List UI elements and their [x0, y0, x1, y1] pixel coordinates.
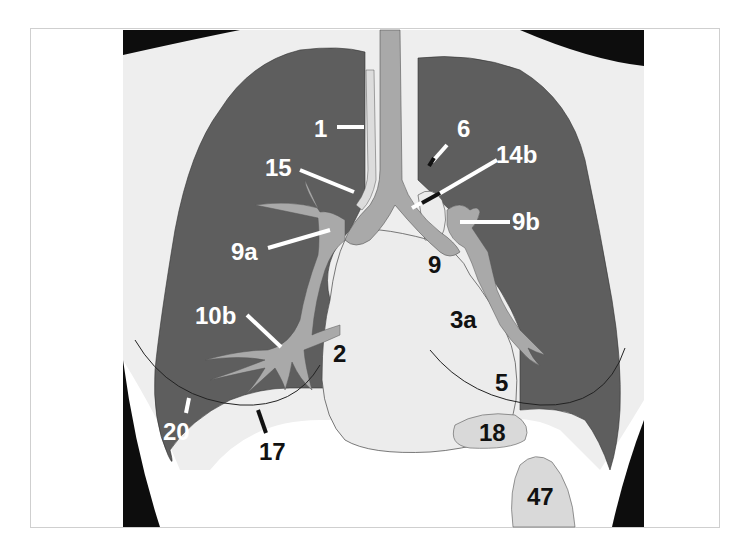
label-6: 6: [457, 115, 470, 142]
label-15: 15: [265, 154, 292, 181]
label-9a: 9a: [231, 238, 258, 265]
label-2: 2: [333, 340, 346, 367]
label-3a: 3a: [450, 306, 477, 333]
label-14b: 14b: [496, 141, 537, 168]
label-17: 17: [259, 438, 286, 465]
label-1: 1: [314, 115, 327, 142]
label-9b: 9b: [512, 208, 540, 235]
chest-diagram: 1 6 14b 15 9b 9a 9 3a 10b 2 5 20 17 18 4…: [0, 0, 731, 557]
label-5: 5: [495, 369, 508, 396]
label-9: 9: [428, 251, 441, 278]
label-20: 20: [163, 418, 190, 445]
label-18: 18: [479, 419, 506, 446]
label-47: 47: [527, 483, 554, 510]
label-10b: 10b: [195, 302, 236, 329]
